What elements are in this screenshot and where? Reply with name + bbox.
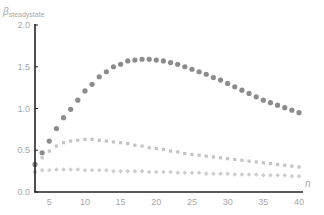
data-point: [126, 142, 129, 145]
data-point: [68, 167, 73, 172]
data-point: [211, 75, 216, 80]
data-point: [275, 173, 280, 178]
data-point: [254, 94, 259, 99]
data-point: [297, 174, 302, 179]
data-point: [61, 167, 66, 172]
data-point: [183, 170, 188, 175]
data-point: [226, 157, 229, 160]
data-point: [296, 110, 301, 115]
data-point: [240, 159, 243, 162]
data-point: [197, 69, 202, 74]
data-point: [246, 91, 251, 96]
data-point: [268, 173, 273, 178]
data-point: [262, 161, 265, 164]
data-point: [240, 172, 245, 177]
data-point: [147, 170, 152, 175]
data-point: [247, 172, 252, 177]
data-point: [40, 150, 45, 155]
data-point: [225, 81, 230, 86]
data-point: [297, 165, 300, 168]
data-point: [168, 60, 173, 65]
data-point: [155, 147, 158, 150]
data-point: [41, 156, 44, 159]
series-3: [33, 167, 302, 178]
x-tick-label: 5: [47, 197, 52, 207]
data-point: [75, 98, 80, 103]
data-point: [205, 154, 208, 157]
data-point: [212, 155, 215, 158]
data-point: [118, 62, 123, 67]
data-point: [232, 84, 237, 89]
data-point: [204, 171, 209, 176]
data-point: [289, 108, 294, 113]
data-point: [189, 67, 194, 72]
data-point: [69, 139, 72, 142]
data-point: [98, 139, 101, 142]
data-point: [111, 169, 116, 174]
data-point: [290, 165, 293, 168]
data-point: [47, 138, 52, 143]
y-tick-label: 2.0: [17, 20, 30, 30]
data-point: [190, 153, 193, 156]
data-point: [111, 64, 116, 69]
x-tick-label: 10: [80, 197, 90, 207]
data-point: [198, 154, 201, 157]
data-point: [268, 100, 273, 105]
data-point: [125, 58, 130, 63]
data-point: [219, 156, 222, 159]
y-tick-label: 1.0: [17, 104, 30, 114]
chart: 0.00.51.01.52.0 510152025303540 βsteadys…: [0, 0, 324, 215]
data-point: [175, 170, 180, 175]
data-point: [76, 139, 79, 142]
data-point: [68, 107, 73, 112]
series-1: [32, 57, 301, 167]
data-point: [255, 160, 258, 163]
data-point: [176, 150, 179, 153]
data-point: [104, 69, 109, 74]
data-point: [175, 62, 180, 67]
data-point: [61, 115, 66, 120]
data-point: [148, 146, 151, 149]
x-axis-ticks: 510152025303540: [47, 197, 304, 207]
data-point: [169, 149, 172, 152]
data-point: [161, 170, 166, 175]
data-point: [190, 170, 195, 175]
y-tick-label: 0.5: [17, 145, 30, 155]
data-point: [182, 64, 187, 69]
data-point: [90, 168, 95, 173]
data-point: [105, 139, 108, 142]
data-point: [89, 82, 94, 87]
data-point: [97, 74, 102, 79]
data-point: [283, 164, 286, 167]
data-point: [290, 174, 295, 179]
data-point: [76, 167, 81, 172]
data-point: [204, 72, 209, 77]
data-point: [90, 138, 93, 141]
data-point: [154, 57, 159, 62]
data-point: [97, 168, 102, 173]
data-point: [40, 168, 45, 173]
data-point: [83, 138, 86, 141]
data-point: [83, 168, 88, 173]
data-point: [154, 170, 159, 175]
x-tick-label: 40: [294, 197, 304, 207]
data-point: [118, 169, 123, 174]
data-point: [183, 152, 186, 155]
data-point: [139, 57, 144, 62]
data-point: [261, 98, 266, 103]
y-axis-title: βsteadystate: [2, 6, 45, 19]
series-layer: [32, 57, 301, 179]
data-point: [276, 163, 279, 166]
data-point: [247, 160, 250, 163]
x-axis-title: n: [305, 178, 311, 189]
data-point: [254, 172, 259, 177]
x-tick-label: 15: [116, 197, 126, 207]
series-2: [33, 138, 300, 174]
data-point: [125, 169, 130, 174]
y-tick-label: 1.5: [17, 62, 30, 72]
data-point: [132, 57, 137, 62]
data-point: [140, 169, 145, 174]
data-point: [133, 169, 138, 174]
data-point: [48, 149, 51, 152]
data-point: [54, 126, 59, 131]
